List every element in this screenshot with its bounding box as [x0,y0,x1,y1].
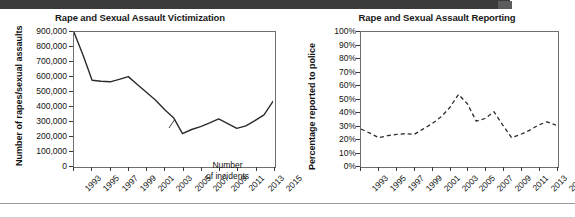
x-tick-label: 1995 [101,173,121,193]
y-tick-mark [356,153,360,154]
x-tick-label: 2001 [156,173,176,193]
x-tick-mark [485,167,486,171]
annotation-line-1: Number [206,160,249,171]
footer-rule [0,203,575,204]
y-tick-mark [356,139,360,140]
y-tick-label: 700,000 [36,56,67,66]
y-tick-mark [356,112,360,113]
y-tick-mark [69,91,73,92]
y-tick-label: 800,000 [36,41,67,51]
y-tick-mark [356,85,360,86]
y-tick-mark [356,45,360,46]
x-tick-mark [450,167,451,171]
reporting-data-line [361,95,556,138]
x-tick-label: 2003 [174,173,194,193]
x-tick-mark [256,167,257,171]
x-tick-label: 2011 [247,173,267,193]
y-tick-label: 60% [339,80,356,90]
y-tick-mark [69,61,73,62]
y-tick-label: 90% [339,40,356,50]
y-tick-label: 900,000 [36,26,67,36]
victimization-line-svg [74,32,273,165]
x-tick-mark [414,167,415,171]
y-tick-label: 0 [62,161,67,171]
y-tick-mark [69,136,73,137]
chart-panel-victimization: Rape and Sexual Assault Victimization Nu… [0,0,292,203]
x-tick-mark [557,167,558,171]
x-tick-mark [539,167,540,171]
x-tick-mark [378,167,379,171]
y-tick-label: 30% [339,121,356,131]
x-tick-mark [73,167,74,171]
y-tick-label: 200,000 [36,131,67,141]
y-tick-label: 10% [339,148,356,158]
x-tick-mark [91,167,92,171]
y-tick-mark [356,99,360,100]
x-tick-label: 1997 [119,173,139,193]
y-tick-mark [356,126,360,127]
y-tick-mark [356,31,360,32]
reporting-line-svg [361,32,556,165]
x-tick-mark [467,167,468,171]
y-tick-mark [356,72,360,73]
y-tick-mark [69,151,73,152]
x-tick-mark [503,167,504,171]
y-tick-mark [69,31,73,32]
x-tick-mark [360,167,361,171]
y-tick-label: 40% [339,107,356,117]
y-tick-label: 600,000 [36,71,67,81]
x-tick-mark [396,167,397,171]
x-tick-mark [521,167,522,171]
plot-area-reporting: Percent reporting [360,31,559,168]
y-tick-label: 100% [334,26,356,36]
plot-area-victimization: Number of incidents [73,31,276,168]
y-tick-label: 50% [339,94,356,104]
y-tick-mark [69,76,73,77]
footer-rule-secondary [0,217,575,218]
x-tick-label: 2013 [265,173,285,193]
x-tick-label: 2005 [192,173,212,193]
y-axis-title-victimization: Number of rapes/sexual assaults [14,25,24,166]
x-tick-mark [146,167,147,171]
x-tick-mark [432,167,433,171]
y-tick-label: 80% [339,53,356,63]
x-tick-mark [128,167,129,171]
y-tick-mark [69,106,73,107]
x-tick-label: 1999 [137,173,157,193]
y-tick-mark [356,58,360,59]
y-axis-title-reporting: Percentage reported to police [307,43,317,170]
y-tick-mark [69,46,73,47]
figure-root: Rape and Sexual Assault Victimization Nu… [0,0,575,218]
x-tick-label: 1993 [83,173,103,193]
y-tick-label: 500,000 [36,86,67,96]
chart-title-victimization: Rape and Sexual Assault Victimization [6,12,274,23]
chart-title-reporting: Rape and Sexual Assault Reporting [312,12,562,23]
y-tick-label: 20% [339,134,356,144]
x-tick-mark [237,167,238,171]
y-tick-label: 400,000 [36,101,67,111]
y-tick-label: 0% [344,161,356,171]
y-tick-label: 100,000 [36,146,67,156]
x-tick-mark [201,167,202,171]
annotation-leader-line-victimization [169,119,175,128]
y-tick-mark [69,121,73,122]
x-tick-mark [219,167,220,171]
x-tick-mark [183,167,184,171]
victimization-data-line [74,32,273,133]
x-tick-mark [110,167,111,171]
y-tick-label: 70% [339,67,356,77]
x-tick-mark [274,167,275,171]
x-tick-mark [164,167,165,171]
y-tick-label: 300,000 [36,116,67,126]
